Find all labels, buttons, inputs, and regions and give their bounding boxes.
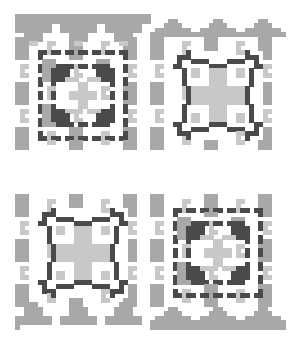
pattern-cell — [92, 95, 97, 100]
pattern-cell — [281, 32, 286, 37]
pattern-cell — [159, 109, 164, 114]
pattern-cell — [245, 136, 250, 141]
pattern-cell — [110, 293, 115, 298]
pattern-cell — [132, 212, 137, 217]
pattern-cell — [24, 145, 29, 150]
pattern-cell — [267, 100, 272, 105]
pattern-cell — [132, 100, 137, 105]
pattern-cell — [159, 55, 164, 60]
pattern-cell — [281, 325, 286, 330]
pattern-cell — [245, 208, 250, 213]
pattern-cell — [105, 217, 110, 222]
pattern-cell — [218, 280, 223, 285]
pattern-cell — [24, 230, 29, 235]
pattern-cell — [60, 230, 65, 235]
pattern-cell — [245, 293, 250, 298]
pattern-cell — [159, 100, 164, 105]
pattern-cell — [218, 221, 223, 226]
pattern-cell — [245, 239, 250, 244]
pattern-cell — [78, 109, 83, 114]
pattern-cell — [51, 41, 56, 46]
pattern-cell — [267, 118, 272, 123]
pattern-cell — [24, 257, 29, 262]
pattern-cell — [132, 257, 137, 262]
pattern-cell — [186, 199, 191, 204]
pattern-cell — [47, 28, 52, 33]
pattern-cell — [182, 118, 187, 123]
pattern-cell — [159, 145, 164, 150]
pattern-cell — [146, 19, 151, 24]
pattern-cell — [24, 221, 29, 226]
pattern-cell — [240, 298, 245, 303]
pattern-cell — [195, 118, 200, 123]
pattern-cell — [240, 199, 245, 204]
pattern-cell — [159, 64, 164, 69]
pattern-cell — [213, 46, 218, 51]
pattern-cell — [267, 221, 272, 226]
pattern-cell — [254, 131, 259, 136]
pattern-cell — [92, 320, 97, 325]
pattern-cell — [159, 230, 164, 235]
pattern-cell — [51, 95, 56, 100]
pattern-cell — [218, 293, 223, 298]
pattern-cell — [159, 221, 164, 226]
pattern-cell — [78, 203, 83, 208]
pattern-cell — [159, 212, 164, 217]
pattern-cell — [132, 275, 137, 280]
pattern-cell — [24, 73, 29, 78]
pattern-cell — [110, 50, 115, 55]
pattern-cell — [267, 212, 272, 217]
pattern-cell — [132, 145, 137, 150]
pattern-cell — [186, 140, 191, 145]
pattern-cell — [132, 221, 137, 226]
pattern-cell — [110, 82, 115, 87]
pattern-cell — [267, 55, 272, 60]
pattern-chart — [0, 0, 293, 344]
pattern-cell — [267, 230, 272, 235]
pattern-cell — [105, 275, 110, 280]
pattern-cell — [245, 253, 250, 258]
pattern-cell — [240, 280, 245, 285]
pattern-cell — [83, 64, 88, 69]
pattern-cell — [132, 55, 137, 60]
pattern-cell — [267, 73, 272, 78]
pattern-cell — [33, 41, 38, 46]
pattern-cell — [69, 284, 74, 289]
pattern-cell — [240, 140, 245, 145]
pattern-cell — [105, 199, 110, 204]
pattern-cell — [132, 64, 137, 69]
pattern-cell — [24, 100, 29, 105]
pattern-cell — [132, 230, 137, 235]
pattern-cell — [110, 118, 115, 123]
pattern-cell — [110, 136, 115, 141]
pattern-cell — [132, 118, 137, 123]
pattern-cell — [132, 302, 137, 307]
pattern-cell — [132, 73, 137, 78]
pattern-cell — [186, 298, 191, 303]
pattern-cell — [240, 41, 245, 46]
pattern-cell — [245, 275, 250, 280]
pattern-cell — [24, 109, 29, 114]
pattern-cell — [159, 118, 164, 123]
pattern-cell — [137, 28, 142, 33]
pattern-cell — [240, 59, 245, 64]
pattern-cell — [240, 73, 245, 78]
pattern-cell — [213, 145, 218, 150]
pattern-cell — [227, 253, 232, 258]
pattern-cell — [105, 140, 110, 145]
pattern-cell — [83, 136, 88, 141]
pattern-cell — [159, 257, 164, 262]
pattern-cell — [249, 82, 254, 87]
pattern-cell — [83, 37, 88, 42]
pattern-cell — [132, 109, 137, 114]
pattern-cell — [267, 64, 272, 69]
pattern-cell — [38, 37, 43, 42]
pattern-cell — [105, 41, 110, 46]
pattern-cell — [213, 266, 218, 271]
pattern-cell — [24, 118, 29, 123]
pattern-cell — [24, 266, 29, 271]
pattern-cell — [267, 109, 272, 114]
pattern-cell — [78, 73, 83, 78]
pattern-cell — [213, 212, 218, 217]
pattern-cell — [186, 253, 191, 258]
